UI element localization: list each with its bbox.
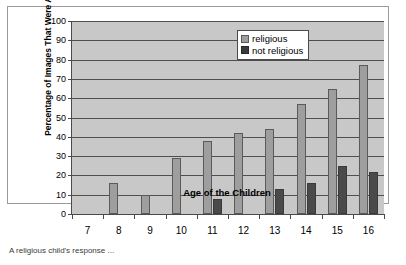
plot-area: 010203040506070809010078910111213141516	[71, 21, 384, 215]
y-axis-tick-mark	[68, 79, 72, 80]
gridline	[72, 98, 384, 99]
legend-label-not-religious: not religious	[252, 45, 303, 57]
x-axis-tick-mark	[103, 214, 104, 219]
y-axis-tick-label: 100	[40, 17, 66, 26]
y-axis-tick-label: 80	[40, 55, 66, 64]
y-axis-tick-mark	[68, 118, 72, 119]
x-axis-tick-mark	[72, 214, 73, 219]
y-axis-tick-label: 20	[40, 171, 66, 180]
legend-label-religious: religious	[252, 33, 287, 45]
x-axis-tick-label: 16	[353, 225, 383, 236]
legend-item-not-religious: not religious	[241, 45, 303, 57]
y-axis-tick-mark	[68, 156, 72, 157]
gridline	[72, 79, 384, 80]
figure-caption: A religious child's response ...	[9, 246, 399, 255]
y-axis-tick-mark	[68, 137, 72, 138]
y-axis-tick-mark	[68, 40, 72, 41]
y-axis-tick-label: 10	[40, 190, 66, 199]
y-axis-tick-label: 30	[40, 152, 66, 161]
x-axis-tick-mark	[259, 214, 260, 219]
x-axis-tick-label: 9	[135, 225, 165, 236]
x-axis-tick-label: 11	[197, 225, 227, 236]
gridline	[72, 60, 384, 61]
bar-religious-13	[265, 129, 274, 214]
x-axis-tick-label: 12	[229, 225, 259, 236]
legend-item-religious: religious	[241, 33, 303, 45]
chart-legend: religious not religious	[237, 30, 309, 60]
gridline	[72, 137, 384, 138]
figure-page: Percentage of Images That Were Abstract …	[0, 0, 406, 265]
y-axis-tick-mark	[68, 175, 72, 176]
x-axis-tick-mark	[228, 214, 229, 219]
x-axis-tick-label: 14	[291, 225, 321, 236]
x-axis-tick-label: 13	[260, 225, 290, 236]
x-axis-tick-mark	[322, 214, 323, 219]
bar-religious-11	[203, 141, 212, 214]
x-axis-tick-label: 15	[322, 225, 352, 236]
y-axis-tick-label: 70	[40, 74, 66, 83]
y-axis-tick-label: 60	[40, 94, 66, 103]
y-axis-tick-mark	[68, 98, 72, 99]
x-axis-tick-mark	[166, 214, 167, 219]
y-axis-tick-label: 0	[40, 210, 66, 219]
chart-frame: Percentage of Images That Were Abstract …	[7, 6, 389, 204]
x-axis-tick-label: 8	[104, 225, 134, 236]
x-axis-tick-mark	[197, 214, 198, 219]
legend-swatch-religious	[241, 35, 249, 43]
y-axis-tick-label: 50	[40, 113, 66, 122]
gridline	[72, 118, 384, 119]
gridline	[72, 40, 384, 41]
gridline	[72, 21, 384, 22]
x-axis-tick-label: 7	[73, 225, 103, 236]
legend-swatch-not-religious	[241, 46, 249, 54]
x-axis-title: Age of the Children	[71, 187, 383, 198]
y-axis-tick-mark	[68, 60, 72, 61]
bar-religious-12	[234, 133, 243, 214]
gridline	[72, 156, 384, 157]
y-axis-tick-label: 40	[40, 132, 66, 141]
x-axis-tick-mark	[353, 214, 354, 219]
y-axis-tick-mark	[68, 21, 72, 22]
x-axis-tick-mark	[290, 214, 291, 219]
bar-not-religious-11	[213, 199, 222, 214]
x-axis-tick-label: 10	[166, 225, 196, 236]
y-axis-tick-label: 90	[40, 36, 66, 45]
x-axis-tick-mark	[134, 214, 135, 219]
x-axis-tick-mark	[384, 214, 385, 219]
